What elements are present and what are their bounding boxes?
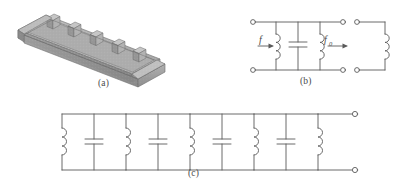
label-input-flux: f — [259, 34, 263, 45]
equivalent-circuit-diagram: f f 0 — [196, 4, 398, 100]
resonator-section-1 — [62, 114, 131, 170]
ladder-network-diagram — [30, 100, 370, 192]
shunt-inductor-right — [320, 22, 324, 70]
caption-c: (c) — [188, 168, 199, 178]
figure-root: (a) — [0, 0, 399, 194]
shunt-capacitor-center — [289, 22, 307, 70]
resonator-section-2 — [126, 114, 195, 170]
output-inductor — [318, 128, 323, 155]
terminal-top-right — [341, 20, 346, 25]
waveguide-body — [18, 14, 165, 87]
terminal-output-top — [352, 111, 357, 116]
terminal-bottom-left — [251, 68, 256, 73]
panel-a-waveguide — [2, 4, 192, 100]
shunt-inductor-left — [276, 22, 280, 70]
terminal-next-bottom — [355, 68, 360, 73]
terminal-next-top — [355, 20, 360, 25]
terminal-top-left — [251, 20, 256, 25]
terminal-output-bottom — [352, 167, 357, 172]
panel-b-equivalent-circuit: f f 0 — [196, 4, 398, 100]
caption-a: (a) — [98, 78, 109, 88]
caption-b: (b) — [300, 76, 312, 86]
resonator-section-4 — [254, 114, 323, 170]
label-output-flux-group: f 0 — [324, 34, 333, 47]
output-port — [318, 111, 358, 172]
label-output-flux: f — [324, 34, 328, 45]
terminal-bottom-right — [341, 68, 346, 73]
waveguide-illustration — [2, 4, 192, 100]
next-section-inductor — [385, 34, 389, 59]
resonator-section-3 — [190, 114, 259, 170]
panel-c-ladder-network — [30, 100, 370, 192]
next-section — [355, 20, 390, 73]
